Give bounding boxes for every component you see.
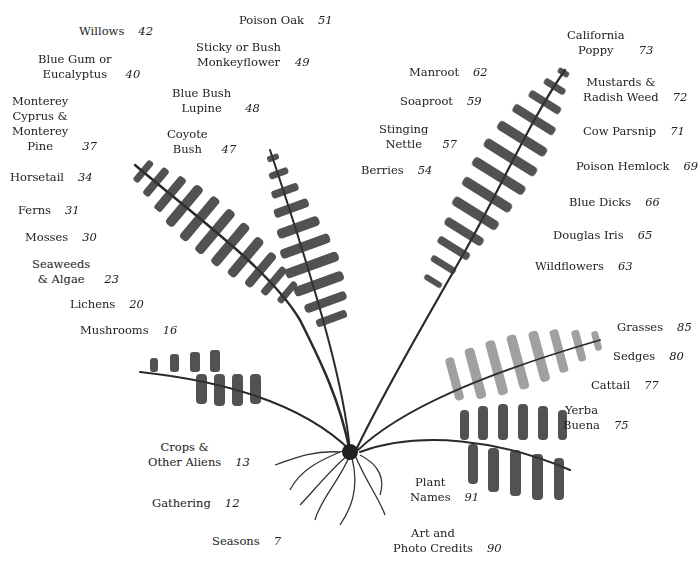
toc-entry-label: Poison Oak [239, 13, 304, 28]
toc-entry-page-number: 48 [245, 101, 260, 115]
toc-entry-page-number: 90 [487, 541, 502, 555]
toc-entry-page-number: 7 [274, 534, 281, 548]
toc-entry[interactable]: Poison Hemlock69 [576, 159, 698, 174]
toc-entry[interactable]: Blue Gum or Eucalyptus40 [38, 52, 140, 82]
toc-entry-label: Coyote Bush [167, 127, 208, 157]
toc-entry[interactable]: Douglas Iris65 [553, 228, 652, 243]
toc-entry-label: Seasons [212, 534, 260, 549]
toc-entry-page-number: 59 [467, 94, 482, 108]
toc-entry[interactable]: Lichens20 [70, 297, 144, 312]
toc-entry-label: Art and Photo Credits [393, 526, 473, 556]
toc-entry[interactable]: Soaproot59 [400, 94, 482, 109]
toc-entry-label: Blue Bush Lupine [172, 86, 231, 116]
toc-entry[interactable]: Blue Dicks66 [569, 195, 660, 210]
toc-entry[interactable]: Yerba Buena75 [563, 403, 629, 433]
toc-entry-page-number: 40 [126, 67, 141, 81]
toc-entry[interactable]: Wildflowers63 [535, 259, 633, 274]
toc-entry-label: Blue Gum or Eucalyptus [38, 52, 112, 82]
toc-entry[interactable]: Horsetail34 [10, 170, 93, 185]
toc-entry-page-number: 34 [78, 170, 93, 184]
toc-entry-page-number: 75 [614, 418, 629, 432]
toc-entry[interactable]: Sticky or Bush Monkeyflower49 [196, 40, 310, 70]
toc-entry[interactable]: Poison Oak51 [239, 13, 333, 28]
toc-entry-page-number: 54 [418, 163, 433, 177]
toc-entry-label: Sticky or Bush Monkeyflower [196, 40, 281, 70]
toc-entry-page-number: 73 [639, 43, 654, 57]
toc-entry-label: Monterey Cyprus & Monterey Pine [12, 94, 68, 154]
toc-entry[interactable]: Crops & Other Aliens13 [148, 440, 250, 470]
toc-entry[interactable]: Art and Photo Credits90 [393, 526, 502, 556]
toc-entry-label: Yerba Buena [563, 403, 600, 433]
toc-entry[interactable]: Seaweeds & Algae23 [32, 257, 119, 287]
toc-entry-page-number: 23 [104, 272, 119, 286]
toc-entry-label: Cow Parsnip [583, 124, 656, 139]
toc-entry-page-number: 16 [163, 323, 178, 337]
toc-entry-page-number: 62 [473, 65, 488, 79]
toc-entry-label: California Poppy [567, 28, 625, 58]
toc-entry-page-number: 57 [442, 137, 457, 151]
toc-entry-label: Mosses [25, 230, 68, 245]
toc-entry[interactable]: Ferns31 [18, 203, 80, 218]
toc-entry-page-number: 42 [138, 24, 153, 38]
toc-entry-label: Mushrooms [80, 323, 149, 338]
toc-entry-label: Soaproot [400, 94, 453, 109]
toc-entry-page-number: 51 [318, 13, 333, 27]
toc-entry-label: Manroot [409, 65, 459, 80]
toc-entry[interactable]: Coyote Bush47 [167, 127, 236, 157]
toc-entry-label: Douglas Iris [553, 228, 624, 243]
toc-entry-label: Plant Names [410, 475, 451, 505]
toc-entry-page-number: 65 [638, 228, 653, 242]
toc-entry[interactable]: Sedges80 [613, 349, 684, 364]
toc-entry[interactable]: Plant Names91 [410, 475, 479, 505]
toc-entry-label: Lichens [70, 297, 115, 312]
toc-entry-page-number: 71 [670, 124, 685, 138]
toc-entry-label: Cattail [591, 378, 630, 393]
toc-entry-label: Horsetail [10, 170, 64, 185]
toc-entry-page-number: 37 [82, 139, 97, 153]
toc-entry-label: Ferns [18, 203, 51, 218]
toc-entry-label: Grasses [617, 320, 663, 335]
toc-entry[interactable]: Mushrooms16 [80, 323, 177, 338]
toc-entry-page-number: 47 [222, 142, 237, 156]
toc-entry-label: Sedges [613, 349, 655, 364]
toc-entry[interactable]: Cattail77 [591, 378, 659, 393]
toc-entry[interactable]: Gathering12 [152, 496, 239, 511]
toc-entry-label: Stinging Nettle [379, 122, 428, 152]
toc-entry[interactable]: Monterey Cyprus & Monterey Pine37 [12, 94, 97, 154]
toc-entry-page-number: 31 [65, 203, 80, 217]
toc-entry-label: Mustards & Radish Weed [583, 75, 659, 105]
toc-entry-page-number: 12 [225, 496, 240, 510]
toc-entry-page-number: 49 [295, 55, 310, 69]
toc-entry-label: Willows [79, 24, 124, 39]
toc-entry-page-number: 30 [82, 230, 97, 244]
toc-entry[interactable]: Seasons7 [212, 534, 281, 549]
toc-entry-page-number: 77 [644, 378, 659, 392]
toc-entry-page-number: 13 [235, 455, 250, 469]
toc-entry-label: Gathering [152, 496, 211, 511]
toc-entry-label: Seaweeds & Algae [32, 257, 90, 287]
toc-entry-page-number: 66 [645, 195, 660, 209]
toc-entry[interactable]: Manroot62 [409, 65, 488, 80]
toc-entry-page-number: 91 [465, 490, 480, 504]
toc-entry-label: Blue Dicks [569, 195, 631, 210]
toc-entry-label: Berries [361, 163, 404, 178]
toc-entry-page-number: 80 [669, 349, 684, 363]
toc-entry[interactable]: Mosses30 [25, 230, 97, 245]
toc-entry[interactable]: Cow Parsnip71 [583, 124, 685, 139]
toc-entry[interactable]: Willows42 [79, 24, 153, 39]
toc-entry[interactable]: Berries54 [361, 163, 432, 178]
toc-entry-label: Poison Hemlock [576, 159, 670, 174]
toc-entry[interactable]: California Poppy73 [567, 28, 653, 58]
toc-entry-page-number: 63 [618, 259, 633, 273]
toc-entry-label: Wildflowers [535, 259, 604, 274]
toc-entry-label: Crops & Other Aliens [148, 440, 221, 470]
toc-entry-page-number: 69 [684, 159, 698, 173]
toc-entry[interactable]: Blue Bush Lupine48 [172, 86, 260, 116]
toc-entry[interactable]: Stinging Nettle57 [379, 122, 457, 152]
toc-entry-page-number: 72 [673, 90, 688, 104]
toc-entry-page-number: 85 [677, 320, 692, 334]
toc-entry-page-number: 20 [129, 297, 144, 311]
toc-entry[interactable]: Grasses85 [617, 320, 692, 335]
toc-entry[interactable]: Mustards & Radish Weed72 [583, 75, 687, 105]
